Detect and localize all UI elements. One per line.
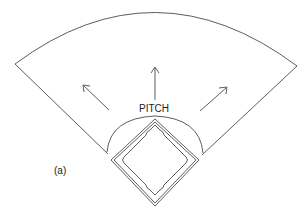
diamond-inner xyxy=(123,125,188,195)
outfield-arc xyxy=(15,12,297,66)
diamond-outer xyxy=(111,119,199,206)
diamond-outer-inner-line xyxy=(114,122,196,203)
arrow-center-icon xyxy=(151,67,159,100)
arrow-left-icon xyxy=(83,85,109,110)
right-foul-line xyxy=(202,66,297,155)
baseball-field-diagram: PITCH (a) xyxy=(0,0,300,218)
panel-label: (a) xyxy=(54,165,66,176)
arrow-right-icon xyxy=(200,87,227,111)
left-foul-line xyxy=(15,64,108,154)
pitch-label: PITCH xyxy=(139,103,169,114)
